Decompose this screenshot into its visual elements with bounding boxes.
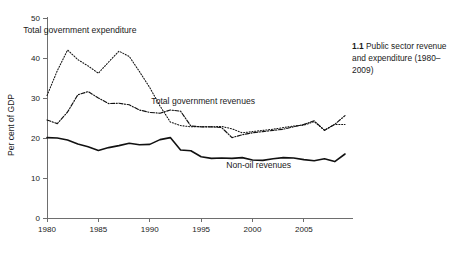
caption-text: Public sector revenue and expenditure (1… bbox=[352, 41, 447, 75]
y-tick-label: 30 bbox=[31, 94, 40, 103]
y-tick-label: 40 bbox=[31, 54, 40, 63]
y-tick-label: 10 bbox=[31, 174, 40, 183]
y-tick-label: 20 bbox=[31, 134, 40, 143]
x-tick-label: 1985 bbox=[89, 225, 107, 234]
x-tick-label: 1995 bbox=[192, 225, 210, 234]
series-label-total-government-revenues: Total government revenues bbox=[151, 96, 255, 106]
series-label-total-government-expenditure: Total government expenditure bbox=[23, 25, 136, 35]
x-tick-label: 2000 bbox=[244, 225, 262, 234]
caption-number: 1.1 bbox=[352, 41, 364, 51]
y-axis: 01020304050 bbox=[31, 14, 47, 223]
series-line-non-oil-revenues bbox=[47, 138, 345, 162]
y-tick-label: 50 bbox=[31, 14, 40, 23]
x-tick-label: 1980 bbox=[38, 225, 56, 234]
figure-container: 01020304050 198019851990199520002005 Per… bbox=[0, 0, 454, 253]
series-label-non-oil-revenues: Non-oil revenues bbox=[226, 160, 291, 170]
figure-caption: 1.1 Public sector revenue and expenditur… bbox=[352, 41, 450, 77]
series-line-total-government-expenditure bbox=[47, 50, 345, 133]
x-axis: 198019851990199520002005 bbox=[38, 218, 353, 234]
x-tick-label: 1990 bbox=[141, 225, 159, 234]
series-labels: Total government expenditureTotal govern… bbox=[23, 25, 291, 169]
y-tick-label: 0 bbox=[36, 214, 41, 223]
x-tick-label: 2005 bbox=[295, 225, 313, 234]
y-axis-title: Per cent of GDP bbox=[6, 94, 16, 156]
chart-plot: 01020304050 198019851990199520002005 Per… bbox=[0, 0, 454, 253]
